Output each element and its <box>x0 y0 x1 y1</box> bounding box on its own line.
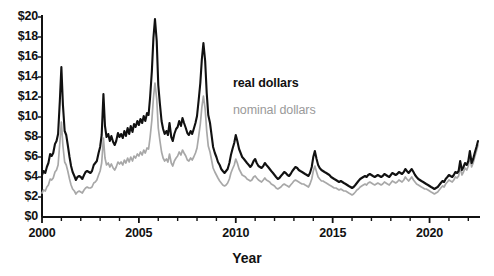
x-axis-tick-label: 2020 <box>416 226 443 240</box>
x-axis-tick-label: 2005 <box>125 226 152 240</box>
x-axis-tick-label: 2000 <box>28 226 55 240</box>
x-axis-title: Year <box>0 250 494 266</box>
chart-container: $20$18$16$14$12$10$8$6$4$2$0 20002005201… <box>0 0 494 276</box>
x-axis-tick-labels: 20002005201020152020 <box>0 0 494 276</box>
x-axis-tick-label: 2010 <box>222 226 249 240</box>
legend-item-nominal-dollars: nominal dollars <box>233 103 316 117</box>
x-axis-tick-label: 2015 <box>319 226 346 240</box>
legend-item-real-dollars: real dollars <box>233 76 299 90</box>
